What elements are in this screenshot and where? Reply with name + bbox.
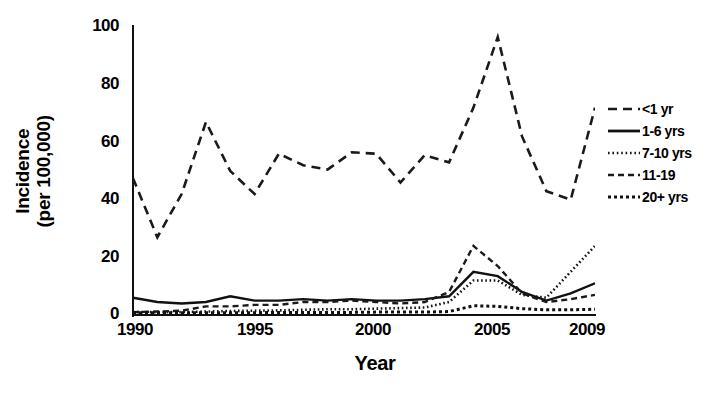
- x-tick-2000: 2000: [338, 320, 408, 340]
- x-tick-1995: 1995: [220, 320, 290, 340]
- y-axis-label-line1: Incidence: [12, 46, 33, 296]
- legend: <1 yr 1-6 yrs 7-10 yrs 11-19 20+ yrs: [607, 98, 723, 208]
- legend-item-20plus: 20+ yrs: [607, 186, 723, 208]
- series-lines: [133, 27, 595, 315]
- legend-label-lt1yr: <1 yr: [642, 101, 673, 117]
- legend-swatch-11-19: [607, 169, 641, 181]
- legend-item-11-19: 11-19: [607, 164, 723, 186]
- legend-swatch-7-10yrs: [607, 147, 641, 159]
- legend-swatch-lt1yr: [607, 103, 641, 115]
- y-tick-100: 100: [75, 16, 119, 36]
- y-tick-60: 60: [75, 132, 119, 152]
- legend-label-1-6yrs: 1-6 yrs: [642, 123, 684, 139]
- y-tick-20: 20: [75, 247, 119, 267]
- y-tick-80: 80: [75, 74, 119, 94]
- legend-item-lt1yr: <1 yr: [607, 98, 723, 120]
- legend-item-7-10yrs: 7-10 yrs: [607, 142, 723, 164]
- y-tick-40: 40: [75, 189, 119, 209]
- legend-item-1-6yrs: 1-6 yrs: [607, 120, 723, 142]
- legend-swatch-20plus: [607, 191, 641, 203]
- legend-swatch-1-6yrs: [607, 125, 641, 137]
- y-axis-label: Incidence (per 100,000): [12, 46, 55, 296]
- legend-label-20plus: 20+ yrs: [642, 189, 688, 205]
- series-line-1: [133, 272, 595, 304]
- plot-area: [133, 27, 595, 315]
- incidence-by-age-line-chart: Incidence (per 100,000) 100 80 60 40 20 …: [0, 0, 723, 396]
- x-tick-1990: 1990: [100, 320, 170, 340]
- x-tick-2009: 2009: [552, 320, 622, 340]
- y-axis-label-line2: (per 100,000): [33, 46, 54, 296]
- x-tick-2005: 2005: [457, 320, 527, 340]
- x-axis-label: Year: [245, 352, 505, 375]
- series-line-0: [133, 37, 595, 237]
- legend-label-11-19: 11-19: [642, 167, 675, 183]
- legend-label-7-10yrs: 7-10 yrs: [642, 145, 692, 161]
